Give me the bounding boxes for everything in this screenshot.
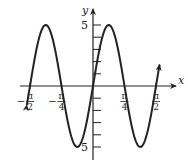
svg-text:−: −: [48, 96, 56, 107]
axes: xy: [20, 4, 185, 160]
y-tick-label: 5: [81, 141, 88, 154]
x-axis-label: x: [178, 74, 185, 87]
svg-text:−: −: [17, 96, 25, 107]
x-tick-label: π2−: [17, 91, 34, 112]
sine-graph: xy 55π2−π4−π4π2: [0, 0, 188, 168]
y-tick-label: 5: [81, 19, 88, 32]
chart-canvas: xy 55π2−π4−π4π2: [0, 0, 188, 168]
y-axis-label: y: [81, 4, 89, 17]
